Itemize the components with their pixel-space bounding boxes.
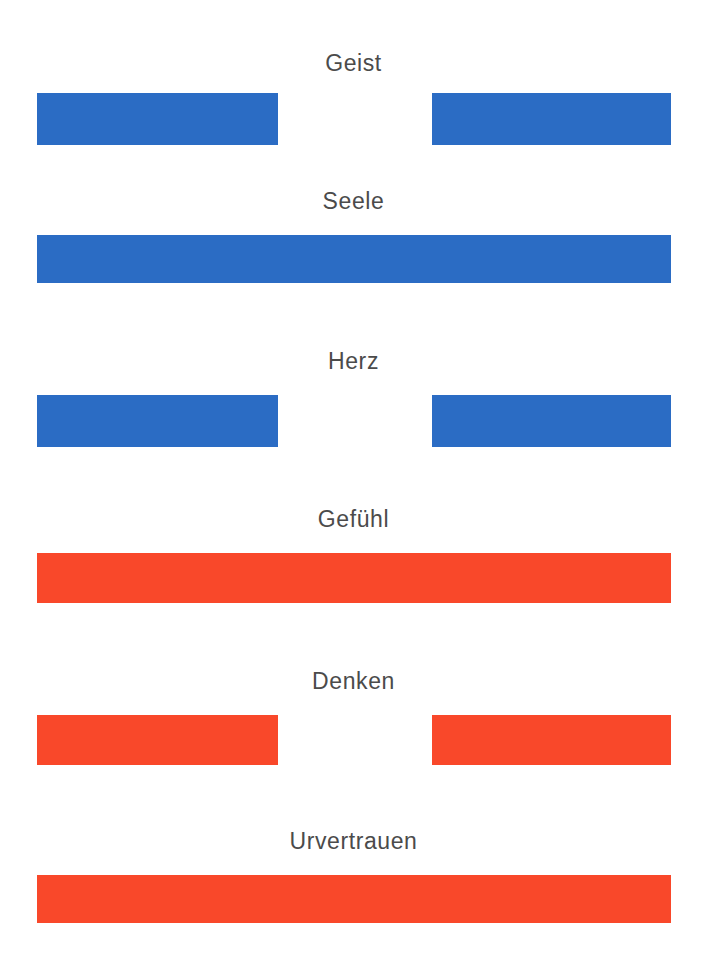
bar-row-seele: Seele	[0, 190, 707, 283]
bar-track-urvertrauen	[0, 875, 707, 923]
bar-segment-geist-right	[432, 93, 671, 145]
bar-row-herz: Herz	[0, 350, 707, 447]
bar-track-geist	[0, 93, 707, 145]
bar-label-seele: Seele	[0, 190, 707, 213]
bar-row-urvertrauen: Urvertrauen	[0, 830, 707, 923]
bar-track-herz	[0, 395, 707, 447]
bar-segment-seele-full	[37, 235, 671, 283]
bar-label-gefuehl: Gefühl	[0, 508, 707, 531]
bar-segment-geist-left	[37, 93, 278, 145]
bar-track-denken	[0, 715, 707, 765]
bar-segment-urvertrauen-full	[37, 875, 671, 923]
bar-label-geist: Geist	[0, 52, 707, 75]
bar-label-urvertrauen: Urvertrauen	[0, 830, 707, 853]
bar-segment-denken-left	[37, 715, 278, 765]
bar-track-gefuehl	[0, 553, 707, 603]
bar-segment-herz-right	[432, 395, 671, 447]
bar-track-seele	[0, 235, 707, 283]
bar-segment-gefuehl-full	[37, 553, 671, 603]
bar-diagram: Geist Seele Herz Gefühl Denken Urvertra	[0, 0, 707, 973]
bar-label-herz: Herz	[0, 350, 707, 373]
bar-row-gefuehl: Gefühl	[0, 508, 707, 603]
bar-row-denken: Denken	[0, 670, 707, 765]
bar-row-geist: Geist	[0, 52, 707, 145]
bar-label-denken: Denken	[0, 670, 707, 693]
bar-segment-herz-left	[37, 395, 278, 447]
bar-segment-denken-right	[432, 715, 671, 765]
